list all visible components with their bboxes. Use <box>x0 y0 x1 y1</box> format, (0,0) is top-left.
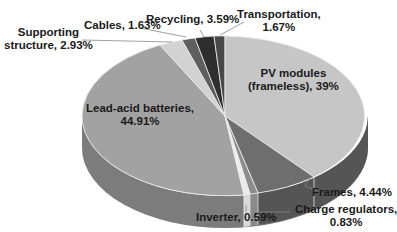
label-supporting-structure: Supporting structure, 2.93% <box>4 26 93 52</box>
label-line: (frameless), 39% <box>248 80 339 93</box>
label-line: Charge regulators, <box>295 203 397 216</box>
label-inverter: Inverter, 0.59% <box>196 211 277 224</box>
label-line: Supporting <box>4 26 93 39</box>
label-frames: Frames, 4.44% <box>312 186 392 199</box>
label-line: Lead-acid batteries, <box>86 102 194 115</box>
label-pv-modules: PV modules (frameless), 39% <box>248 67 339 93</box>
label-line: structure, 2.93% <box>4 39 93 52</box>
label-lead-acid-batteries: Lead-acid batteries, 44.91% <box>86 102 194 128</box>
label-text: Frames, 4.44% <box>312 186 392 198</box>
label-line: Transportation, <box>237 8 321 21</box>
label-text: Recycling, 3.59% <box>146 13 239 25</box>
label-transportation: Transportation, 1.67% <box>237 8 321 34</box>
label-line: 0.83% <box>295 216 397 229</box>
label-text: Inverter, 0.59% <box>196 211 277 223</box>
label-charge-regulators: Charge regulators, 0.83% <box>295 203 397 229</box>
label-line: 44.91% <box>86 115 194 128</box>
label-line: 1.67% <box>237 21 321 34</box>
label-recycling: Recycling, 3.59% <box>146 13 239 26</box>
label-line: PV modules <box>248 67 339 80</box>
